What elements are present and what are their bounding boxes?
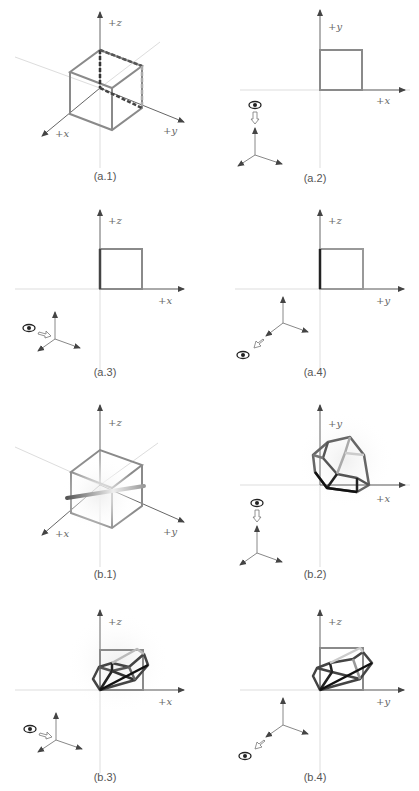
caption: (a.1) — [0, 170, 210, 182]
eye-icon — [24, 726, 36, 733]
z-axis-label: +z — [108, 616, 122, 627]
panel-a3: +z +x (a.3) — [0, 200, 210, 385]
x-axis-label: +x — [376, 493, 390, 504]
x-axis-label: +x — [158, 295, 172, 306]
mini-axis-triad-icon — [266, 698, 308, 737]
x-axis-label: +x — [55, 528, 69, 539]
top-view-diagram: +y +x — [210, 0, 419, 195]
caption: (b.1) — [0, 568, 210, 580]
mini-axis-triad-icon — [266, 297, 308, 336]
z-axis-label: +z — [108, 417, 122, 428]
y-axis-label: +y — [328, 21, 342, 32]
eye-icon — [23, 325, 35, 332]
panel-a2: +y +x (a.2) — [210, 0, 419, 195]
caption: (a.2) — [210, 172, 419, 184]
caption: (a.3) — [0, 366, 210, 378]
guide-line — [100, 42, 160, 88]
y-axis-label: +y — [163, 125, 177, 136]
z-axis-label: +z — [328, 616, 342, 627]
front-view-diagram: +z +x — [0, 200, 210, 385]
panel-a4: +z +y (a.4) — [210, 200, 419, 385]
isometric-cube-rod-diagram: +z +x +y — [0, 385, 210, 585]
view-direction-arrow-icon — [253, 510, 261, 522]
x-axis-label: +x — [376, 95, 390, 106]
isometric-cube-diagram: +z +x +y — [0, 0, 210, 195]
view-direction-arrow-icon — [251, 112, 259, 124]
square-projection — [320, 249, 363, 289]
panel-b4: +z +y (b.4) — [210, 585, 419, 791]
panel-a1: +z +x +y (a.1) — [0, 0, 210, 195]
mini-axis-triad-icon — [38, 312, 80, 351]
y-axis-label: +y — [163, 526, 177, 537]
panel-b3: +z +x (b.3) — [0, 585, 210, 791]
eye-icon — [251, 500, 263, 507]
eye-icon — [237, 352, 249, 359]
front-view-rotated-diagram: +z +x — [0, 585, 210, 791]
eye-icon — [249, 102, 261, 109]
guide-line — [15, 57, 100, 88]
view-direction-arrow-icon — [38, 331, 51, 338]
panel-b2: +y +x (b.2) — [210, 385, 419, 585]
side-view-rotated-diagram: +z +y — [210, 585, 419, 791]
panel-b1: +z +x +y (b.1) — [0, 385, 210, 585]
caption: (b.4) — [210, 771, 419, 783]
z-axis-label: +z — [328, 215, 342, 226]
x-axis-label: +x — [158, 696, 172, 707]
view-direction-arrow-icon — [255, 740, 265, 749]
x-axis-label: +x — [55, 128, 69, 139]
y-axis-label: +y — [376, 295, 390, 306]
caption: (b.3) — [0, 771, 210, 783]
y-axis-label: +y — [376, 696, 390, 707]
square-projection — [320, 50, 362, 90]
y-axis-label: +y — [328, 418, 342, 429]
z-axis-label: +z — [108, 215, 122, 226]
caption: (b.2) — [210, 568, 419, 580]
square-projection — [100, 249, 142, 289]
caption: (a.4) — [210, 366, 419, 378]
view-direction-arrow-icon — [39, 732, 52, 739]
top-view-rotated-diagram: +y +x — [210, 385, 419, 585]
eye-icon — [239, 753, 251, 760]
view-direction-arrow-icon — [254, 339, 264, 348]
side-view-diagram: +z +y — [210, 200, 419, 385]
z-axis-label: +z — [108, 17, 122, 28]
mini-axis-triad-icon — [240, 526, 282, 565]
mini-axis-triad-icon — [238, 128, 282, 166]
mini-axis-triad-icon — [38, 713, 82, 752]
